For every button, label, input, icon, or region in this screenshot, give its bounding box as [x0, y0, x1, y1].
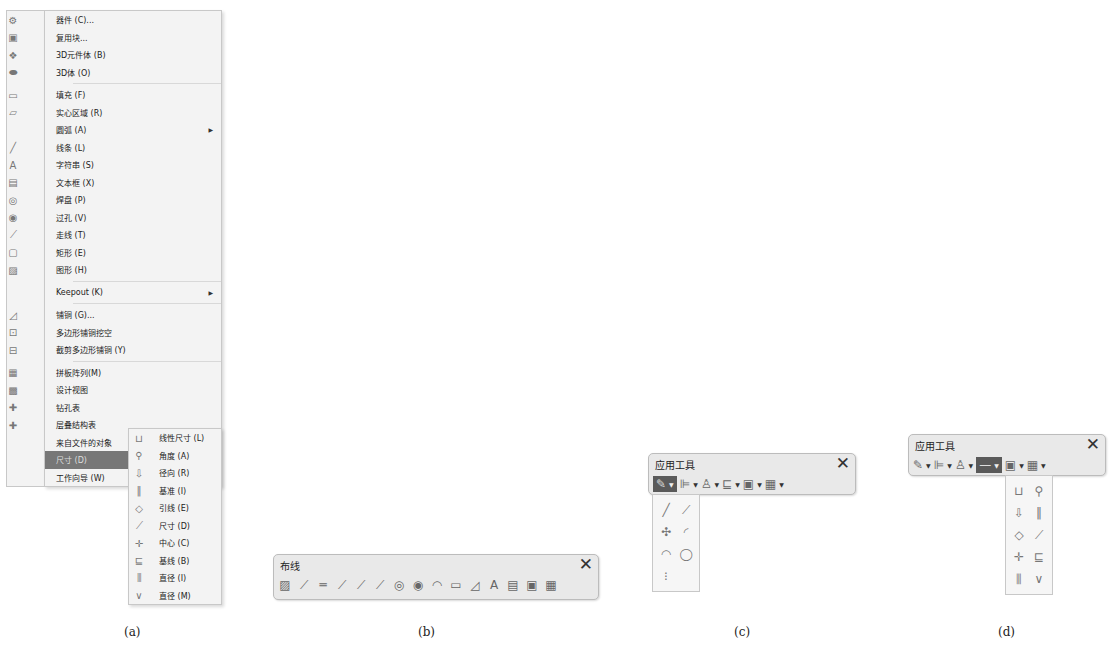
menu-item[interactable]: ▣复用块...: [45, 29, 221, 47]
menu-item[interactable]: ⬬3D体 (O): [45, 64, 221, 82]
dropdown-arrow-icon[interactable]: ▼: [947, 462, 952, 469]
dropdown-arrow-icon[interactable]: ▼: [926, 462, 931, 469]
dropdown-arrow-icon[interactable]: ▼: [1019, 462, 1024, 469]
dropdown-arrow-icon[interactable]: ▼: [735, 481, 740, 488]
pad-button[interactable]: ◎: [392, 577, 406, 593]
interactive-route-button[interactable]: ⟋: [297, 577, 311, 593]
submenu-item[interactable]: ⊔线性尺寸 (L): [129, 429, 221, 447]
submenu-item[interactable]: ⟋尺寸 (D): [129, 517, 221, 535]
string-button[interactable]: A: [487, 577, 501, 593]
find-similar-button[interactable]: ♙▼: [955, 457, 973, 473]
align-button[interactable]: ⊫▼: [934, 457, 952, 473]
arc-button[interactable]: ◠: [430, 577, 444, 593]
close-icon[interactable]: ✕: [1086, 436, 1100, 453]
menu-item[interactable]: ❖3D元件体 (B): [45, 46, 221, 64]
menu-item[interactable]: Keepout (K)▶: [45, 284, 221, 302]
arc-edge-icon[interactable]: ◠: [657, 545, 675, 563]
tune-diff-pair-button[interactable]: ⟋: [373, 577, 387, 593]
find-similar-button[interactable]: ♙▼: [701, 476, 719, 492]
submenu-item[interactable]: ⚲角度 (A): [129, 447, 221, 465]
fill-button[interactable]: ▭: [449, 577, 463, 593]
line-from-component-icon[interactable]: ⟋: [677, 501, 695, 519]
datum-dimension-icon[interactable]: ‖: [1030, 504, 1048, 522]
line-icon[interactable]: ╱: [657, 501, 675, 519]
menu-item[interactable]: ▦拼板阵列(M): [45, 364, 221, 382]
component-button[interactable]: ▣: [525, 577, 539, 593]
diff-pair-route-button[interactable]: ═: [316, 577, 330, 593]
angular-dimension-icon[interactable]: ⚲: [1030, 482, 1048, 500]
text-frame-button[interactable]: ▤: [506, 577, 520, 593]
menu-item[interactable]: A字符串 (S): [45, 156, 221, 174]
toolbar-titlebar[interactable]: 应用工具 ✕: [909, 435, 1105, 455]
menu-item[interactable]: ✚钻孔表: [45, 399, 221, 417]
submenu-item[interactable]: ‖基准 (I): [129, 482, 221, 500]
menu-item[interactable]: ⟋走线 (T): [45, 226, 221, 244]
dimension-button[interactable]: ⊑▼: [722, 476, 740, 492]
grid-button[interactable]: ▦▼: [1027, 457, 1046, 473]
drawing-tools-button[interactable]: ✎▼: [913, 457, 931, 473]
layer-stack-table-icon: ✚: [7, 419, 19, 431]
menu-separator: [73, 83, 221, 84]
menu-item[interactable]: ▨图形 (H): [45, 261, 221, 279]
linear-dimension-icon[interactable]: ⊔: [1010, 482, 1028, 500]
menu-item[interactable]: ▭填充 (F): [45, 86, 221, 104]
reuse-block-button[interactable]: ▦: [544, 577, 558, 593]
menu-item[interactable]: ▱实心区域 (R): [45, 104, 221, 122]
dropdown-arrow-icon[interactable]: ▼: [757, 481, 762, 488]
radial-dimension-icon[interactable]: ⇩: [1010, 504, 1028, 522]
menu-item[interactable]: ⊟截剪多边形铺铜 (Y): [45, 341, 221, 359]
menu-item[interactable]: 圆弧 (A)▶: [45, 121, 221, 139]
dropdown-arrow-icon[interactable]: ▼: [969, 462, 974, 469]
toolbar-title: 应用工具: [655, 457, 695, 472]
dropdown-arrow-icon[interactable]: ▼: [715, 481, 720, 488]
tune-length-button[interactable]: ⟋: [354, 577, 368, 593]
multi-route-button[interactable]: ⟋: [335, 577, 349, 593]
center-dimension-icon[interactable]: ✛: [1010, 548, 1028, 566]
via-button[interactable]: ◉: [411, 577, 425, 593]
drawing-tools-button[interactable]: ✎▼: [653, 476, 677, 492]
toolbar-buttons: ▨⟋═⟋⟋⟋◎◉◠▭◿A▤▣▦: [274, 575, 598, 595]
menu-item[interactable]: ◉过孔 (V): [45, 209, 221, 227]
grid-button[interactable]: ▦▼: [765, 476, 784, 492]
dropdown-arrow-icon[interactable]: ▼: [994, 462, 999, 469]
dropdown-arrow-icon[interactable]: ▼: [1041, 462, 1046, 469]
radial-diameter-icon[interactable]: ∨: [1030, 570, 1048, 588]
menu-item[interactable]: ╱线条 (L): [45, 139, 221, 157]
leader-dimension-icon[interactable]: ◇: [1010, 526, 1028, 544]
menu-item[interactable]: ⊡多边形铺铜挖空: [45, 324, 221, 342]
menu-item[interactable]: ⚙器件 (C)...: [45, 11, 221, 29]
room-button[interactable]: ▣▼: [1005, 457, 1024, 473]
toolbar-titlebar[interactable]: 应用工具 ✕: [649, 454, 855, 474]
dropdown-arrow-icon[interactable]: ▼: [779, 481, 784, 488]
close-icon[interactable]: ✕: [579, 556, 593, 573]
dropdown-arrow-icon[interactable]: ▼: [669, 481, 674, 488]
baseline-dimension-icon[interactable]: ⊑: [1030, 548, 1048, 566]
submenu-item[interactable]: ◇引线 (E): [129, 499, 221, 517]
toolbar-titlebar[interactable]: 布线 ✕: [274, 555, 598, 575]
menu-item[interactable]: ▢矩形 (E): [45, 244, 221, 262]
menu-item[interactable]: ▤文本框 (X): [45, 174, 221, 192]
polygon-pour-button[interactable]: ◿: [468, 577, 482, 593]
dimension-button[interactable]: —▼: [976, 457, 1002, 473]
menu-item-label: 尺寸 (D): [56, 454, 87, 465]
full-circle-icon[interactable]: ◯: [677, 545, 695, 563]
submenu-item[interactable]: ⇩径向 (R): [129, 464, 221, 482]
set-origin-icon[interactable]: ✣: [657, 523, 675, 541]
submenu-item[interactable]: ✛中心 (C): [129, 534, 221, 552]
route-multiple-button[interactable]: ▨: [278, 577, 292, 593]
arc-center-icon[interactable]: ◜: [677, 523, 695, 541]
menu-item[interactable]: ◎焊盘 (P): [45, 191, 221, 209]
room-button[interactable]: ▣▼: [743, 476, 762, 492]
close-icon[interactable]: ✕: [836, 455, 850, 472]
linear-diameter-icon[interactable]: ⫼: [1010, 570, 1028, 588]
submenu-item[interactable]: ⊑基线 (B): [129, 552, 221, 570]
standard-dimension-icon[interactable]: ⟋: [1030, 526, 1048, 544]
menu-item[interactable]: ▩设计视图: [45, 381, 221, 399]
submenu-item[interactable]: ⫼直径 (I): [129, 569, 221, 587]
dropdown-arrow-icon[interactable]: ▼: [693, 481, 698, 488]
menu-item[interactable]: ◿铺铜 (G)...: [45, 306, 221, 324]
align-button[interactable]: ⊫▼: [680, 476, 698, 492]
datum-dimension-icon: ‖: [133, 485, 145, 497]
paste-array-icon[interactable]: ⁝: [657, 567, 675, 585]
submenu-item[interactable]: ∨直径 (M): [129, 587, 221, 605]
